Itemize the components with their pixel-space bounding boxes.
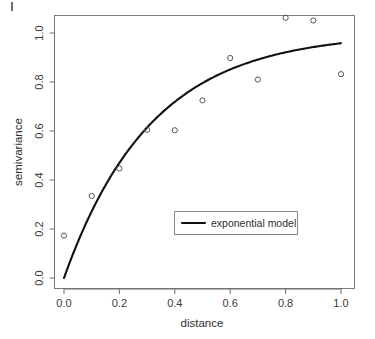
y-tick-label-5: 1.0 xyxy=(33,25,45,40)
scan-artifact-mark xyxy=(11,2,13,11)
y-tick-label-4: 0.8 xyxy=(33,74,45,89)
y-tick-label-3: 0.6 xyxy=(33,123,45,138)
y-tick-label-1: 0.2 xyxy=(33,221,45,236)
legend: exponential model xyxy=(175,212,298,235)
y-tick-label-0: 0.0 xyxy=(33,270,45,285)
x-tick-label-1: 0.2 xyxy=(112,297,127,309)
semivariogram-figure: 0.0 0.2 0.4 0.6 0.8 1.0 distance 1.0 0.8… xyxy=(0,0,375,339)
y-axis-title: semivariance xyxy=(12,118,24,186)
y-axis xyxy=(50,33,55,278)
chart-canvas: 0.0 0.2 0.4 0.6 0.8 1.0 distance 1.0 0.8… xyxy=(0,0,375,339)
x-tick-label-4: 0.8 xyxy=(278,297,293,309)
x-tick-label-3: 0.6 xyxy=(223,297,238,309)
plot-frame xyxy=(55,16,355,289)
x-tick-label-2: 0.4 xyxy=(167,297,182,309)
legend-label-exponential-model: exponential model xyxy=(211,217,296,229)
y-tick-label-2: 0.4 xyxy=(33,172,45,187)
x-axis xyxy=(64,289,341,294)
x-axis-title: distance xyxy=(181,317,224,329)
x-tick-label-0: 0.0 xyxy=(56,297,71,309)
x-tick-label-5: 1.0 xyxy=(333,297,348,309)
